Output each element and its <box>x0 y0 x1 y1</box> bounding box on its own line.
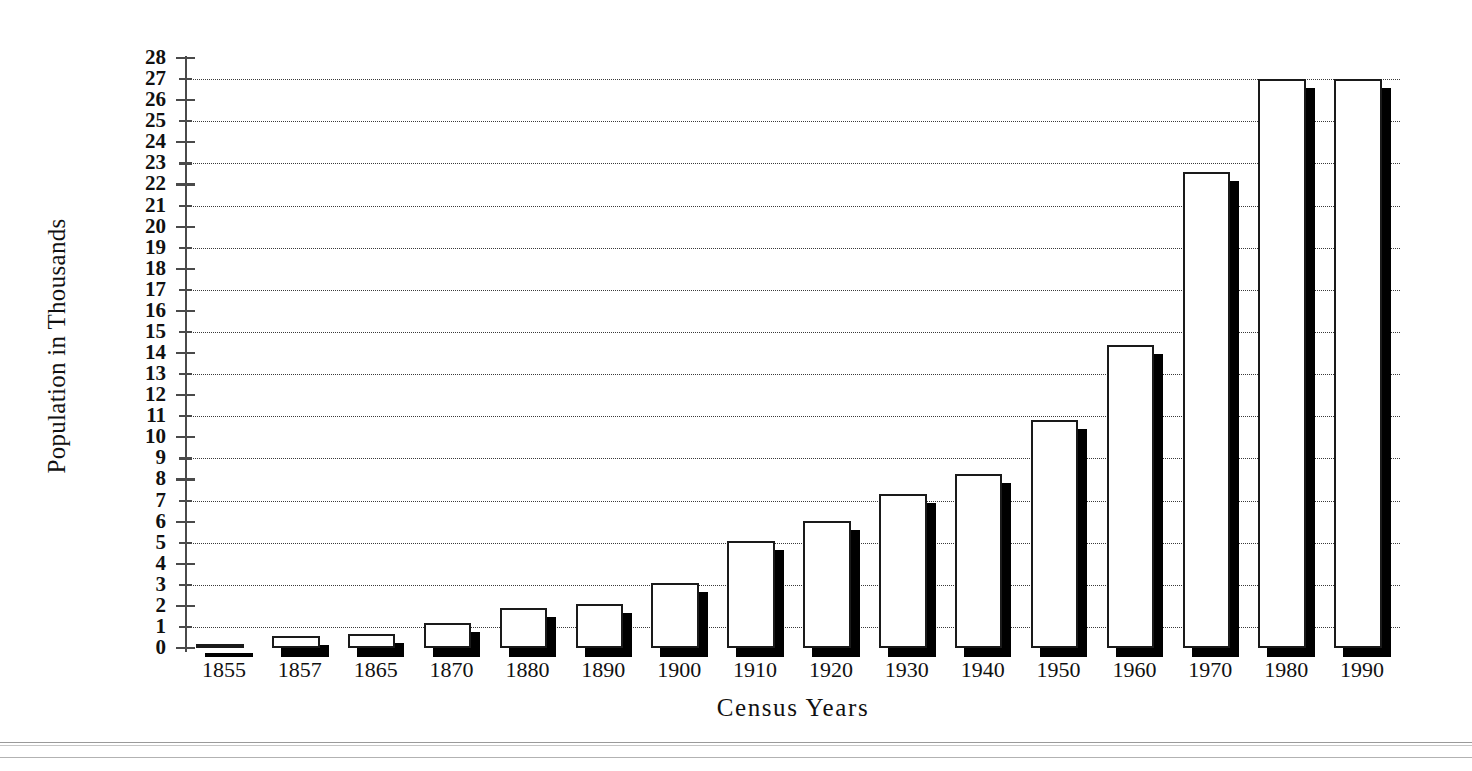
bar[interactable] <box>576 604 623 648</box>
gridline <box>186 79 1400 80</box>
y-axis-tick <box>176 478 195 480</box>
bar[interactable] <box>727 541 774 648</box>
plot-area <box>186 58 1400 648</box>
bar[interactable] <box>500 608 547 648</box>
y-axis-tick <box>179 500 192 502</box>
bar-face <box>196 644 243 648</box>
x-axis-tick-labels: 1855185718651870188018901900191019201930… <box>186 657 1400 691</box>
y-axis-tick-label: 26 <box>122 89 166 110</box>
y-axis-tick-label: 16 <box>122 300 166 321</box>
y-axis-tick-label: 10 <box>122 426 166 447</box>
x-axis-tick-label: 1857 <box>262 657 338 683</box>
y-axis-tick <box>179 542 192 544</box>
y-axis-tick-label: 23 <box>122 152 166 173</box>
y-axis-tick-label: 5 <box>122 532 166 553</box>
bar[interactable] <box>1107 345 1154 648</box>
y-axis-tick <box>176 183 195 185</box>
page-edge-line <box>0 742 1472 743</box>
y-axis-tick <box>179 415 192 417</box>
y-axis-tick <box>176 352 195 354</box>
y-axis-tick <box>176 521 195 523</box>
x-axis-tick-label: 1900 <box>641 657 717 683</box>
y-axis-tick <box>176 647 195 649</box>
bar[interactable] <box>803 521 850 648</box>
page-edge-line <box>0 745 1472 746</box>
y-axis-tick-label: 13 <box>122 363 166 384</box>
y-axis-tick-labels: 0123456789101112131415161718192021222324… <box>122 0 166 771</box>
x-axis-tick-label: 1880 <box>490 657 566 683</box>
bar[interactable] <box>348 634 395 648</box>
y-axis-tick-label: 1 <box>122 616 166 637</box>
bar[interactable] <box>1258 79 1305 648</box>
bar[interactable] <box>424 623 471 648</box>
y-axis-tick <box>179 78 192 80</box>
bar-face <box>348 634 395 648</box>
x-axis-tick-label: 1910 <box>717 657 793 683</box>
page-edge-line <box>0 757 1472 758</box>
y-axis-tick-label: 3 <box>122 574 166 595</box>
y-axis-tick-label: 18 <box>122 258 166 279</box>
y-axis-tick-label: 12 <box>122 384 166 405</box>
y-axis-tick-label: 24 <box>122 131 166 152</box>
y-axis-tick <box>176 226 195 228</box>
y-axis-tick <box>179 162 192 164</box>
bar[interactable] <box>196 644 243 648</box>
bar-face <box>576 604 623 648</box>
y-axis-tick-label: 11 <box>122 405 166 426</box>
y-axis-tick-label: 22 <box>122 173 166 194</box>
bar[interactable] <box>272 636 319 648</box>
y-axis-tick <box>179 373 192 375</box>
gridline <box>186 121 1400 122</box>
y-axis-tick <box>179 626 192 628</box>
bar-face <box>1183 172 1230 648</box>
x-axis-title: Census Years <box>186 694 1400 722</box>
bar[interactable] <box>879 494 926 648</box>
bar[interactable] <box>1031 420 1078 648</box>
y-axis-tick-label: 7 <box>122 490 166 511</box>
y-axis-tick-label: 6 <box>122 511 166 532</box>
bar-face <box>1334 79 1381 648</box>
chart-figure: Population in Thousands 0123456789101112… <box>0 0 1472 771</box>
y-axis-title: Population in Thousands <box>43 216 71 476</box>
x-axis-tick-label: 1940 <box>945 657 1021 683</box>
bar[interactable] <box>955 474 1002 648</box>
bar[interactable] <box>1334 79 1381 648</box>
y-axis-tick-label: 4 <box>122 553 166 574</box>
y-axis-tick <box>176 394 195 396</box>
bar-face <box>955 474 1002 648</box>
bar-face <box>1258 79 1305 648</box>
y-axis-tick-label: 19 <box>122 237 166 258</box>
y-axis-tick <box>179 120 192 122</box>
bar[interactable] <box>651 583 698 648</box>
x-axis-tick-label: 1980 <box>1248 657 1324 683</box>
bar-face <box>879 494 926 648</box>
y-axis-tick <box>176 141 195 143</box>
bar-face <box>803 521 850 648</box>
x-axis-tick-label: 1870 <box>414 657 490 683</box>
y-axis-tick <box>176 268 195 270</box>
y-axis-tick-label: 0 <box>122 637 166 658</box>
y-axis-tick <box>176 436 195 438</box>
bar-face <box>651 583 698 648</box>
y-axis-tick-label: 28 <box>122 47 166 68</box>
y-axis-tick-label: 20 <box>122 216 166 237</box>
x-axis-tick-label: 1930 <box>869 657 945 683</box>
y-axis-tick-label: 9 <box>122 447 166 468</box>
x-axis-tick-label: 1960 <box>1097 657 1173 683</box>
y-axis-tick-label: 15 <box>122 321 166 342</box>
x-axis-tick-label: 1920 <box>793 657 869 683</box>
bar[interactable] <box>1183 172 1230 648</box>
y-axis-tick <box>179 289 192 291</box>
x-axis-tick-label: 1990 <box>1324 657 1400 683</box>
bar-face <box>272 636 319 648</box>
y-axis-tick-label: 14 <box>122 342 166 363</box>
y-axis-tick-label: 21 <box>122 195 166 216</box>
y-axis-tick <box>176 563 195 565</box>
y-axis-tick-label: 8 <box>122 468 166 489</box>
y-axis-tick-label: 17 <box>122 279 166 300</box>
y-axis-tick <box>176 310 195 312</box>
y-axis-tick <box>179 331 192 333</box>
y-axis-tick <box>179 584 192 586</box>
x-axis-tick-label: 1855 <box>186 657 262 683</box>
y-axis-tick <box>176 57 195 59</box>
